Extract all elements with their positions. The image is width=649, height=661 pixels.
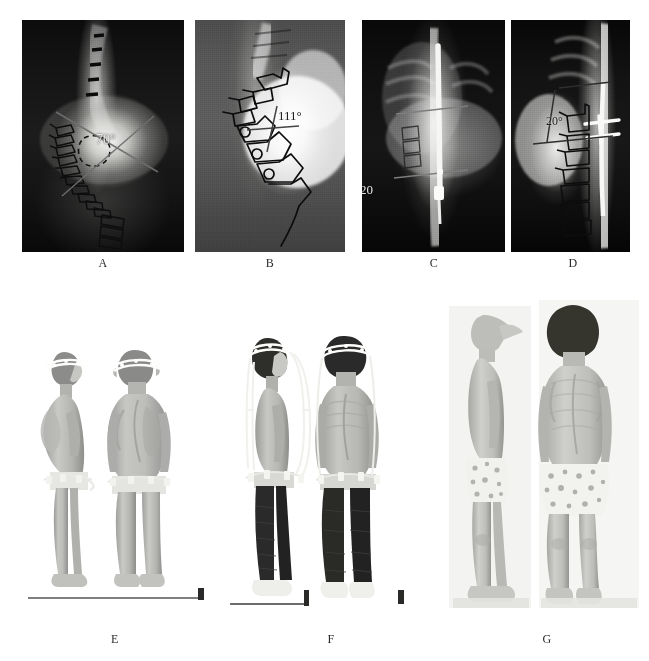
panel-b-tracing-overlay [195, 20, 345, 252]
panel-g-floor-lateral [453, 598, 529, 608]
panel-label-e: E [100, 632, 130, 647]
panel-d-angle-label: 20° [546, 114, 563, 129]
panel-label-a: A [88, 256, 118, 271]
panel-g-body-figures [443, 300, 643, 630]
panel-label-d: D [558, 256, 588, 271]
panel-d-instrumentation-overlay [511, 20, 630, 252]
panel-d-radiograph: 20° [511, 20, 630, 252]
panel-e-lateral-figure [41, 352, 88, 587]
panel-label-f: F [316, 632, 346, 647]
panel-c-instrumentation-overlay [362, 20, 505, 252]
panel-label-g: G [532, 632, 562, 647]
panel-f-scale-cap-right [398, 590, 404, 604]
panel-f-photographs [228, 318, 423, 630]
panel-g-floor-posterior [541, 598, 637, 608]
panel-label-c: C [419, 256, 449, 271]
panel-b-angle-label: 111° [278, 108, 302, 124]
panel-e-body-figures [20, 330, 215, 630]
panel-e-scale-cap [198, 588, 204, 600]
panel-f-body-figures [228, 318, 423, 630]
panel-c-radiograph: 20 [362, 20, 505, 252]
figure-plate: 70° A [0, 0, 649, 661]
panel-label-b: B [255, 256, 285, 271]
panel-f-posterior-figure [315, 336, 379, 598]
panel-g-photographs [443, 300, 643, 630]
panel-f-lateral-figure [252, 338, 294, 596]
panel-a-radiograph: 70° [22, 20, 184, 252]
panel-e-posterior-figure [107, 350, 171, 587]
panel-c-angle-label: 20 [362, 182, 373, 198]
panel-e-photographs [20, 330, 215, 630]
panel-a-angle-label: 70° [96, 132, 116, 148]
panel-b-radiograph: 111° [195, 20, 345, 252]
